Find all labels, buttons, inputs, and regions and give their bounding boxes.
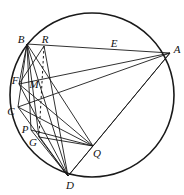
vertex-label-b: B bbox=[18, 34, 25, 45]
vertex-label-d: D bbox=[66, 180, 74, 191]
vertex-label-a: A bbox=[174, 44, 181, 55]
segment-G-D bbox=[39, 137, 68, 176]
vertex-label-m: M bbox=[29, 79, 38, 90]
segment-B-A bbox=[27, 44, 170, 53]
vertex-label-p: P bbox=[22, 124, 29, 135]
geometry-canvas bbox=[0, 0, 184, 195]
segment-D-Q bbox=[68, 146, 93, 176]
circumscribed-circle bbox=[10, 13, 174, 177]
vertex-label-q: Q bbox=[93, 148, 101, 159]
vertex-label-f: F bbox=[12, 75, 19, 86]
vertex-label-e: E bbox=[111, 38, 118, 49]
vertex-label-c: C bbox=[7, 106, 14, 117]
vertex-label-g: G bbox=[29, 137, 37, 148]
segment-R-G-dashed bbox=[39, 46, 44, 137]
geometry-figure: ABCDEFGMPQR bbox=[0, 0, 184, 195]
vertex-label-r: R bbox=[42, 34, 49, 45]
segment-B-C bbox=[18, 44, 27, 107]
